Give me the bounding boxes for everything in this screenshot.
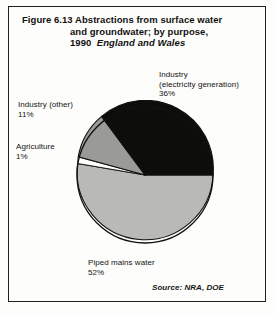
title-line-1: Figure 6.13 Abstractions from surface wa…	[22, 14, 254, 26]
title-region: England and Wales	[97, 37, 186, 48]
label-industry-electricity-value: 36%	[159, 89, 239, 99]
label-agriculture: Agriculture 1%	[16, 142, 55, 161]
title-line-3: 1990 England and Wales	[22, 37, 254, 49]
label-industry-electricity-line1: Industry	[159, 70, 239, 80]
pie-chart-svg	[76, 100, 216, 252]
figure-title: Figure 6.13 Abstractions from surface wa…	[22, 14, 254, 49]
figure-container: Figure 6.13 Abstractions from surface wa…	[0, 0, 275, 314]
pie-chart	[76, 100, 216, 252]
label-industry-other: Industry (other) 11%	[18, 100, 73, 119]
label-industry-electricity-line2: (electricity generation)	[159, 80, 239, 90]
label-agriculture-line1: Agriculture	[16, 142, 55, 152]
label-piped-mains-water: Piped mains water 52%	[88, 258, 155, 277]
label-piped-mains-water-line1: Piped mains water	[88, 258, 155, 268]
label-agriculture-value: 1%	[16, 152, 55, 162]
label-industry-electricity: Industry (electricity generation) 36%	[159, 70, 239, 99]
title-line-2: and groundwater; by purpose,	[22, 26, 254, 38]
label-piped-mains-water-value: 52%	[88, 268, 155, 278]
label-industry-other-value: 11%	[18, 110, 73, 120]
label-industry-other-line1: Industry (other)	[18, 100, 73, 110]
title-year: 1990	[70, 37, 91, 48]
source-note: Source: NRA, DOE	[152, 283, 224, 292]
